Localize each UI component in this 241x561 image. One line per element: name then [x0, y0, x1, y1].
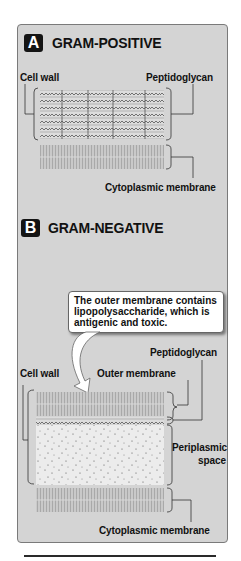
- panel-a-peptidoglycan-layers: [40, 90, 164, 139]
- footer-rule: [24, 555, 216, 557]
- callout-arrow-icon: [72, 332, 100, 393]
- diagram-graphics: [0, 0, 241, 561]
